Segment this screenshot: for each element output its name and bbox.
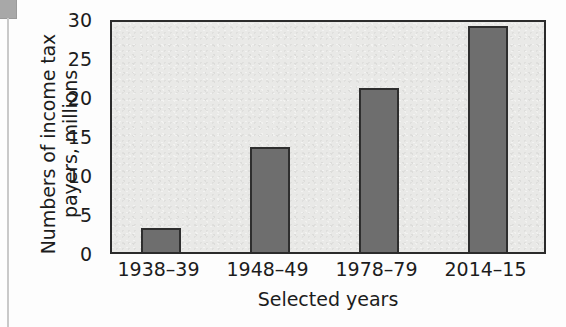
- bar: [141, 228, 181, 252]
- page-edge-rule: [7, 18, 9, 327]
- scan-corner-artifact: [0, 0, 17, 19]
- y-axis-title-line-1: Numbers of income tax: [37, 34, 59, 254]
- y-tick-label: 5: [80, 204, 92, 226]
- x-tick-label: 2014–15: [444, 258, 526, 280]
- bar: [359, 88, 399, 252]
- y-tick-label: 10: [68, 165, 92, 187]
- y-tick-label: 20: [68, 87, 92, 109]
- bar: [468, 26, 508, 252]
- x-axis-title: Selected years: [110, 288, 546, 310]
- x-tick-label: 1978–79: [335, 258, 417, 280]
- x-tick-label: 1938–39: [117, 258, 199, 280]
- x-axis-tick-labels: 1938–391948–491978–792014–15: [110, 258, 546, 286]
- bar: [250, 147, 290, 252]
- y-tick-label: 25: [68, 48, 92, 70]
- bar-chart-figure: Numbers of income tax payers, millions 0…: [0, 0, 566, 327]
- y-tick-label: 0: [80, 243, 92, 265]
- x-tick-label: 1948–49: [226, 258, 308, 280]
- y-axis-tick-labels: 051015202530: [58, 0, 98, 327]
- y-tick-label: 15: [68, 126, 92, 148]
- plot-area: [110, 20, 546, 254]
- y-tick-label: 30: [68, 9, 92, 31]
